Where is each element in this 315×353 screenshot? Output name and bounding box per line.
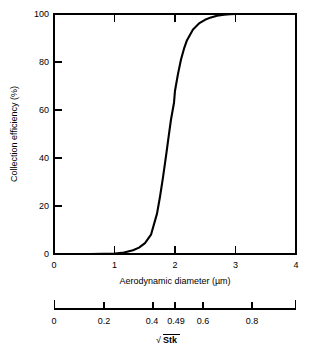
y-axis-ticks [54,62,62,206]
efficiency-curve [54,14,296,254]
x-tick-label-3: 3 [233,260,238,270]
y-axis-tick-labels: 0 20 40 60 80 100 [34,9,49,259]
x-axis-tick-labels: 0 1 2 3 4 [51,260,298,270]
x-axis-title: Aerodynamic diameter (µm) [119,276,230,286]
y-tick-label-40: 40 [39,153,49,163]
stk-tick-label-0.8: 0.8 [246,316,259,326]
chart-figure: 0 20 40 60 80 100 Collection efficiency … [0,0,315,353]
stk-label-body: Stk [163,335,178,345]
plot-border [54,14,296,254]
secondary-stk-axis [54,300,296,309]
y-tick-label-100: 100 [34,9,49,19]
x-tick-label-1: 1 [112,260,117,270]
y-tick-label-0: 0 [44,249,49,259]
x-tick-label-2: 2 [172,260,177,270]
y-tick-label-80: 80 [39,57,49,67]
y-tick-label-60: 60 [39,105,49,115]
stk-tick-label-0.4: 0.4 [146,316,159,326]
secondary-stk-tick-labels: 0 0.2 0.4 0.49 0.6 0.8 [51,316,258,326]
x-tick-label-0: 0 [51,260,56,270]
stk-tick-label-0.2: 0.2 [98,316,111,326]
secondary-axis-title: √ Stk [156,335,180,346]
x-tick-label-4: 4 [293,260,298,270]
y-tick-label-20: 20 [39,201,49,211]
sqrt-radical-glyph: √ [156,335,161,345]
stk-tick-label-0.49: 0.49 [167,316,185,326]
collection-efficiency-chart: 0 20 40 60 80 100 Collection efficiency … [0,0,315,353]
plot-frame [54,14,296,254]
stk-tick-label-0: 0 [51,316,56,326]
y-axis-title: Collection efficiency (%) [9,86,19,182]
stk-tick-label-0.6: 0.6 [197,316,210,326]
